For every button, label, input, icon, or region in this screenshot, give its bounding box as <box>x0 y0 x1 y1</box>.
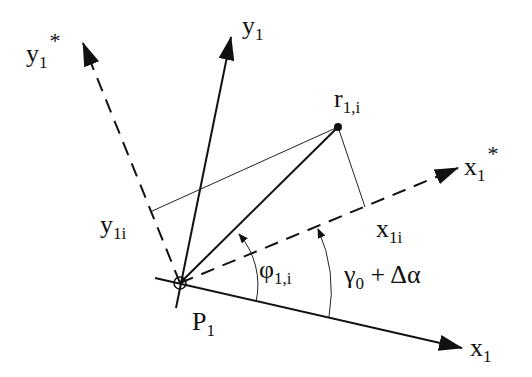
label-y1-star: y1* <box>26 28 61 72</box>
label-r1i: r1,i <box>334 84 360 117</box>
gamma-angle-arc <box>318 229 331 317</box>
y1-axis <box>176 37 231 308</box>
projection-line-x1i <box>338 127 365 207</box>
label-x1-star: x1* <box>464 141 499 185</box>
projection-line-y1i <box>150 127 338 212</box>
label-x1i: x1i <box>376 214 403 247</box>
label-gamma: γ0 + Δα <box>343 260 421 293</box>
label-phi: φ1,i <box>259 255 292 288</box>
y1-star-axis <box>83 43 180 283</box>
phi-angle-arc <box>239 234 258 302</box>
point-r-marker <box>334 123 342 131</box>
label-y1: y1 <box>242 11 264 44</box>
label-p1: P1 <box>192 307 215 340</box>
label-y1i: y1i <box>100 210 127 243</box>
label-x1: x1 <box>470 333 492 366</box>
coordinate-frame-diagram: y1* y1 r1,i x1* x1i y1i φ1,i γ0 + Δα P1 … <box>0 0 532 377</box>
